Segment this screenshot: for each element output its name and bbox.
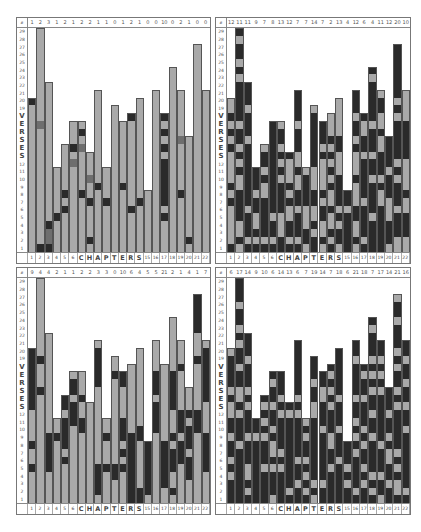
verse-cell: [86, 426, 94, 434]
verse-cell: [327, 410, 335, 418]
verse-cell: [335, 426, 343, 434]
verse-cell: [185, 229, 193, 237]
y-tick: E: [17, 120, 27, 128]
verse-cell: [202, 464, 210, 472]
x-tick: 21: [193, 253, 201, 263]
verse-cell: [61, 167, 69, 175]
y-tick: 19: [216, 105, 226, 113]
verse-cell: [402, 105, 410, 113]
verse-cell: [136, 418, 144, 426]
verse-cell: [277, 418, 285, 426]
verse-cell: [177, 379, 185, 387]
x-tick: 2: [235, 253, 243, 263]
verse-cell: [78, 371, 86, 379]
verse-cell: [285, 221, 293, 229]
x-tick: P: [102, 504, 110, 514]
verse-cell: [177, 441, 185, 449]
verse-cell: [360, 175, 368, 183]
verse-cell: [36, 113, 44, 121]
verse-cell: [202, 152, 210, 160]
verse-cell: [177, 136, 185, 144]
verse-cell: [393, 441, 401, 449]
verse-cell: [294, 340, 302, 348]
y-tick: 7: [17, 449, 27, 457]
y-tick: V: [216, 112, 226, 120]
verse-cell: [385, 418, 393, 426]
verse-cell: [402, 356, 410, 364]
verse-cell: [385, 152, 393, 160]
verse-cell: [319, 159, 327, 167]
verse-cell: [185, 198, 193, 206]
verse-cell: [160, 213, 168, 221]
verse-cell: [227, 379, 235, 387]
verse-cell: [385, 159, 393, 167]
header-count: 0: [202, 18, 210, 27]
verse-cell: [343, 495, 351, 503]
verse-cell: [368, 395, 376, 403]
verse-cell: [402, 480, 410, 488]
verse-cell: [53, 175, 61, 183]
verse-cell: [227, 457, 235, 465]
verse-cell: [335, 244, 343, 252]
verse-cell: [78, 183, 86, 191]
verse-cell: [152, 395, 160, 403]
verse-cell: [277, 472, 285, 480]
verse-cell: [169, 82, 177, 90]
verse-cell: [227, 387, 235, 395]
verse-cell: [235, 302, 243, 310]
y-axis: 2928272625242322212019VERSES121110987654…: [17, 28, 28, 252]
verse-cell: [111, 244, 119, 252]
verse-cell: [327, 113, 335, 121]
verse-cell: [136, 472, 144, 480]
x-tick: 21: [393, 253, 401, 263]
x-tick: 16: [352, 253, 360, 263]
verse-cell: [36, 129, 44, 137]
chapter-column: [244, 82, 252, 252]
verse-cell: [285, 441, 293, 449]
verse-cell: [294, 387, 302, 395]
verse-cell: [402, 98, 410, 106]
verse-cell: [193, 136, 201, 144]
verse-cell: [235, 213, 243, 221]
verse-cell: [393, 198, 401, 206]
verse-cell: [102, 221, 110, 229]
verse-cell: [335, 159, 343, 167]
verse-cell: [360, 221, 368, 229]
verse-cell: [368, 244, 376, 252]
verse-cell: [61, 144, 69, 152]
verse-cell: [402, 348, 410, 356]
verse-cell: [119, 144, 127, 152]
verse-cell: [294, 159, 302, 167]
verse-cell: [28, 237, 36, 245]
verse-cell: [368, 464, 376, 472]
verse-cell: [244, 183, 252, 191]
verse-cell: [160, 364, 168, 372]
verse-cell: [368, 410, 376, 418]
x-tick: 2: [36, 253, 44, 263]
y-tick: 29: [17, 278, 27, 286]
verse-cell: [393, 433, 401, 441]
verse-cell: [285, 426, 293, 434]
verse-cell: [269, 480, 277, 488]
verse-cell: [352, 167, 360, 175]
verse-cell: [127, 426, 135, 434]
chapter-column: [86, 152, 94, 252]
y-tick: 2: [216, 237, 226, 245]
verse-cell: [327, 418, 335, 426]
verse-cell: [177, 221, 185, 229]
verse-cell: [285, 198, 293, 206]
verse-cell: [302, 472, 310, 480]
verse-cell: [119, 183, 127, 191]
verse-cell: [169, 144, 177, 152]
verse-cell: [127, 395, 135, 403]
verse-cell: [368, 418, 376, 426]
verse-cell: [327, 488, 335, 496]
y-tick: 12: [17, 160, 27, 168]
verse-cell: [227, 113, 235, 121]
verse-cell: [152, 244, 160, 252]
verse-cell: [368, 183, 376, 191]
verse-cell: [327, 495, 335, 503]
verse-cell: [127, 472, 135, 480]
verse-cell: [360, 402, 368, 410]
verse-cell: [144, 237, 152, 245]
